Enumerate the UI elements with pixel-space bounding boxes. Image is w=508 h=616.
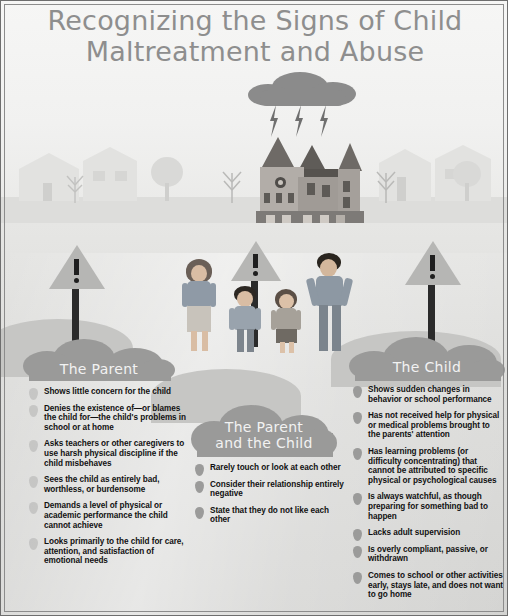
list-item: Lacks adult supervision: [353, 528, 503, 538]
lightning-bolts-group: [269, 105, 339, 139]
drop-bullet-icon: [353, 572, 362, 584]
tree-icon: [453, 161, 481, 201]
list-item-text: Asks teachers or other caregivers to use…: [44, 439, 187, 468]
list-item: Has learning problems (or difficulty con…: [353, 447, 503, 485]
drop-bullet-icon: [195, 507, 204, 519]
drop-bullet-icon: [353, 448, 362, 460]
title-line-1: Recognizing the Signs of Child: [48, 5, 463, 36]
column-the-parent-and-the-child: Rarely touch or look at each other Consi…: [195, 463, 345, 532]
list-item-text: Demands a level of physical or academic …: [44, 501, 187, 530]
house-window: [343, 181, 350, 192]
list-item: Is always watchful, as though preparing …: [353, 492, 503, 521]
column-header-text-line-1: The Parent: [191, 419, 337, 435]
house-lit-window: [282, 215, 291, 223]
list-item-text: Consider their relationship entirely neg…: [210, 480, 345, 499]
list-item-text: Comes to school or other activities earl…: [368, 571, 503, 600]
page-title: Recognizing the Signs of Child Maltreatm…: [1, 5, 508, 67]
lightning-bolt-icon: [319, 105, 329, 137]
list-item: Asks teachers or other caregivers to use…: [29, 439, 187, 468]
column-the-child: Shows sudden changes in behavior or scho…: [353, 385, 503, 607]
house-window: [343, 197, 350, 208]
list-item-text: Looks primarily to the child for care, a…: [44, 537, 187, 566]
background-window: [115, 171, 127, 181]
boy-figure: [229, 286, 263, 352]
column-header-text: The Child: [349, 359, 505, 375]
lightning-bolt-icon: [269, 105, 279, 137]
list-item-text: Has learning problems (or difficulty con…: [368, 447, 503, 485]
list-item: Demands a level of physical or academic …: [29, 501, 187, 530]
list-item-text: Shows sudden changes in behavior or scho…: [368, 385, 503, 404]
list-item-text: Shows little concern for the child: [44, 387, 187, 397]
house-window: [307, 183, 315, 195]
list-item: Denies the existence of—or blames the ch…: [29, 404, 187, 433]
house-window: [322, 185, 330, 197]
tree-icon: [151, 157, 183, 201]
list-item-text: Is always watchful, as though preparing …: [368, 492, 503, 521]
house-round-window-glass: [278, 180, 283, 185]
drop-bullet-icon: [195, 464, 204, 476]
house-lit-window: [266, 215, 275, 223]
drop-bullet-icon: [29, 476, 38, 488]
main-house-illustration: [246, 137, 368, 223]
background-house: [83, 161, 137, 201]
list-item-text: Sees the child as entirely bad, worthles…: [44, 475, 187, 494]
bare-tree-icon: [219, 165, 245, 203]
warning-sign: [49, 245, 105, 343]
column-the-parent: Shows little concern for the child Denie…: [29, 387, 187, 573]
list-item: Looks primarily to the child for care, a…: [29, 537, 187, 566]
bare-tree-icon: [63, 167, 87, 203]
father-figure: [307, 253, 353, 351]
list-item: Rarely touch or look at each other: [195, 463, 345, 473]
house-window: [264, 193, 270, 203]
list-item: Is overly compliant, passive, or withdra…: [353, 545, 503, 564]
list-item: Consider their relationship entirely neg…: [195, 480, 345, 499]
background-house-roof: [83, 147, 137, 161]
title-line-2: Maltreatment and Abuse: [1, 36, 508, 67]
house-window: [288, 193, 294, 203]
drop-bullet-icon: [353, 546, 362, 558]
infographic-poster: Recognizing the Signs of Child Maltreatm…: [0, 0, 508, 616]
list-item: Comes to school or other activities earl…: [353, 571, 503, 600]
house-tower-roof: [338, 143, 362, 171]
list-item-text: Has not received help for physical or me…: [368, 411, 503, 440]
column-header-the-parent: The Parent: [23, 339, 175, 381]
background-window: [93, 171, 105, 181]
house-turret-roof: [262, 137, 294, 167]
drop-bullet-icon: [353, 386, 362, 398]
mother-figure: [179, 259, 219, 351]
house-lit-window: [303, 215, 312, 223]
list-item-text: Denies the existence of—or blames the ch…: [44, 404, 187, 433]
drop-bullet-icon: [29, 440, 38, 452]
list-item: Shows little concern for the child: [29, 387, 187, 397]
girl-figure: [271, 289, 303, 353]
drop-bullet-icon: [29, 502, 38, 514]
house-lit-window: [320, 215, 329, 223]
list-item-text: Rarely touch or look at each other: [210, 463, 345, 473]
warning-sign: [405, 241, 461, 341]
lightning-bolt-icon: [294, 105, 304, 137]
column-header-text: The Parent: [23, 361, 175, 377]
bare-tree-icon: [373, 165, 399, 203]
background-house-roof: [435, 145, 491, 159]
drop-bullet-icon: [29, 538, 38, 550]
column-header-the-parent-and-the-child: The Parent and the Child: [191, 405, 337, 457]
column-header-the-child: The Child: [349, 337, 505, 381]
list-item-text: Is overly compliant, passive, or withdra…: [368, 545, 503, 564]
house-window: [276, 193, 282, 203]
drop-bullet-icon: [353, 412, 362, 424]
column-header-text-line-2: and the Child: [191, 435, 337, 451]
background-house-roof: [379, 149, 431, 163]
drop-bullet-icon: [29, 388, 38, 400]
drop-bullet-icon: [353, 493, 362, 505]
list-item: Shows sudden changes in behavior or scho…: [353, 385, 503, 404]
list-item-text: Lacks adult supervision: [368, 528, 503, 538]
drop-bullet-icon: [195, 481, 204, 493]
list-item: State that they do not like each other: [195, 506, 345, 525]
drop-bullet-icon: [29, 405, 38, 417]
house-door: [336, 215, 345, 223]
list-item-text: State that they do not like each other: [210, 506, 345, 525]
list-item: Has not received help for physical or me…: [353, 411, 503, 440]
drop-bullet-icon: [353, 529, 362, 541]
background-house-door: [43, 183, 52, 201]
list-item: Sees the child as entirely bad, worthles…: [29, 475, 187, 494]
